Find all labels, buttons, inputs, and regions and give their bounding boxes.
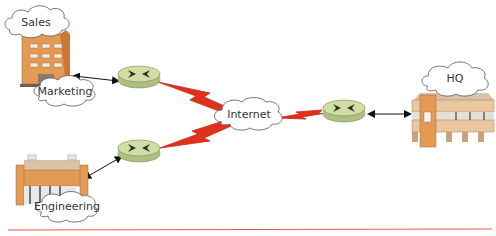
router-engineering-icon[interactable] [118, 140, 160, 162]
router-sales-icon[interactable] [118, 66, 160, 88]
label-sales: Sales [21, 16, 50, 29]
label-engineering: Engineering [34, 200, 100, 213]
network-diagram: Sales Marketing Engineering Internet HQ [0, 0, 496, 236]
lan-link-engineering [85, 157, 121, 178]
baseline-rule [8, 229, 492, 230]
wan-link-internet-hq [276, 110, 326, 119]
label-marketing: Marketing [38, 85, 93, 98]
building-hq-icon [412, 93, 494, 147]
label-internet: Internet [227, 108, 271, 121]
router-hq-icon[interactable] [323, 100, 365, 122]
label-hq: HQ [447, 72, 464, 85]
